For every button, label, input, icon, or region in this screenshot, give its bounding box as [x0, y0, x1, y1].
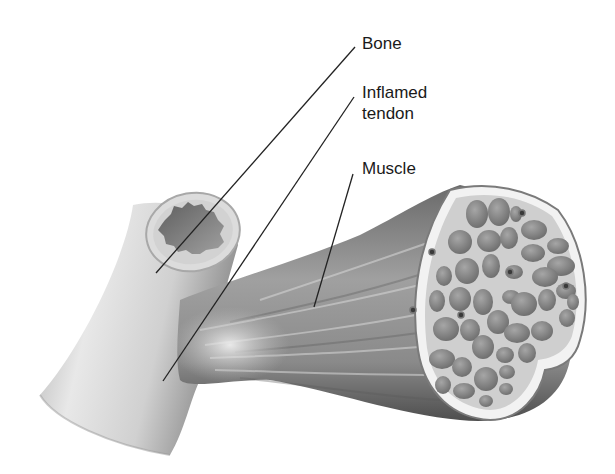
label-bone: Bone: [362, 33, 402, 54]
diagram-canvas: Bone Inflamed tendon Muscle: [0, 0, 615, 474]
label-inflamed-tendon-line2: tendon: [362, 103, 427, 124]
label-inflamed-tendon-line1: Inflamed: [362, 82, 427, 103]
illustration: [0, 0, 615, 474]
label-inflamed-tendon: Inflamed tendon: [362, 82, 427, 124]
leader-line-bone: [156, 47, 355, 273]
label-muscle: Muscle: [362, 158, 416, 179]
inflamed-tendon-region: [170, 307, 290, 383]
